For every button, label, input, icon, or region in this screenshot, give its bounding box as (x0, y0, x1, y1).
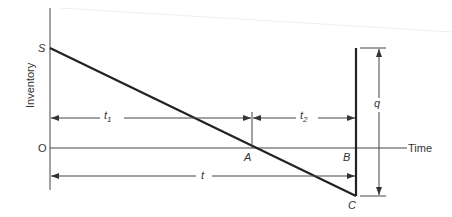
point-c-label: C (348, 200, 356, 211)
scan-artifact (60, 8, 452, 32)
inventory-diagram (0, 0, 452, 217)
t2-label: t2 (300, 110, 308, 121)
t2-sub: 2 (303, 115, 307, 124)
t1-label: t1 (104, 110, 112, 121)
x-axis-label: Time (408, 143, 432, 154)
t-label: t (201, 170, 204, 181)
q-label: q (374, 98, 380, 109)
origin-label: O (38, 143, 47, 154)
t1-sub: 1 (107, 115, 111, 124)
point-s-label: S (38, 43, 45, 54)
y-axis-label: Inventory (25, 63, 36, 108)
point-b-label: B (343, 152, 350, 163)
point-a-label: A (244, 152, 251, 163)
